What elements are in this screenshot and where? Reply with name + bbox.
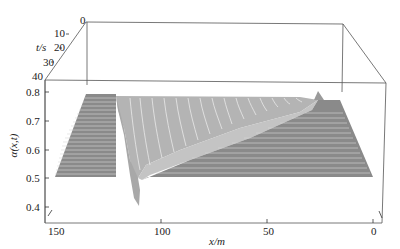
x-axis-ticks xyxy=(48,210,382,223)
z-tick-0.6: 0.6 xyxy=(26,145,40,156)
x-axis-label: x/m xyxy=(209,236,225,247)
z-axis-ticks xyxy=(45,92,49,207)
t-tick-10: 10 xyxy=(54,28,65,39)
x-tick-0: 0 xyxy=(371,226,377,237)
wave-peak xyxy=(314,91,324,100)
z-tick-0.5: 0.5 xyxy=(26,173,40,184)
x-tick-150: 150 xyxy=(48,226,65,237)
x-tick-50: 50 xyxy=(263,226,274,237)
t-tick-30: 30 xyxy=(43,57,54,68)
z-tick-0.7: 0.7 xyxy=(26,116,40,127)
t-tick-40: 40 xyxy=(32,71,43,82)
t-tick-20: 20 xyxy=(54,42,65,53)
t-tick-0: 0 xyxy=(80,15,86,26)
x-tick-100: 100 xyxy=(154,226,171,237)
z-axis-label: α(x,t) xyxy=(8,134,19,158)
plateau-left xyxy=(55,94,116,177)
z-tick-0.8: 0.8 xyxy=(26,87,40,98)
z-tick-0.4: 0.4 xyxy=(26,202,40,213)
t-axis-label: t/s xyxy=(36,42,46,53)
